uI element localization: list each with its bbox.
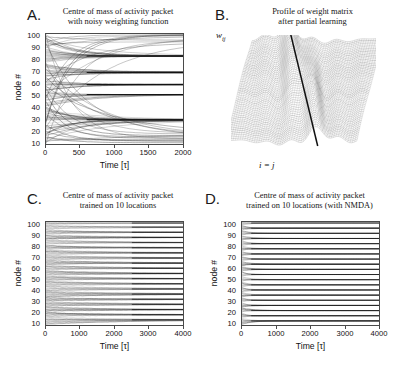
panel-a-ytick-2: 30 — [0, 115, 40, 124]
panel-d-plot-area — [241, 221, 380, 326]
panel-c-ytick-0: 10 — [0, 319, 40, 328]
panel-d-ytick-2: 30 — [196, 297, 236, 306]
panel-a-traces — [46, 34, 183, 144]
panel-a-ytick-7: 80 — [0, 55, 40, 64]
panel-d-xtick-2: 2000 — [302, 329, 319, 338]
panel-c-letter: C. — [27, 190, 42, 207]
panel-a-xtick-1: 500 — [73, 148, 86, 157]
panel-c-x-axis-label: Time [τ] — [45, 341, 184, 351]
panel-a-ytick-9: 100 — [0, 31, 40, 40]
panel-a-xtick-0: 0 — [43, 148, 47, 157]
panel-d-ytick-1: 20 — [196, 308, 236, 317]
panel-c-ytick-9: 100 — [0, 220, 40, 229]
panel-a-y-axis-label: node # — [13, 65, 23, 109]
panel-a-ytick-1: 20 — [0, 127, 40, 136]
panel-c-xtick-2: 2000 — [106, 329, 123, 338]
panel-c-xtick-0: 0 — [43, 329, 47, 338]
panel-a-ytick-0: 10 — [0, 139, 40, 148]
panel-d-letter: D. — [205, 190, 220, 207]
panel-d-y-axis-label: node # — [209, 251, 219, 295]
panel-c-title: Centre of mass of activity packet traine… — [48, 191, 188, 211]
panel-b-y-axis-label-sub: ij — [222, 35, 226, 42]
panel-a-x-axis-label: Time [τ] — [45, 160, 184, 170]
panel-d-x-axis-label: Time [τ] — [241, 341, 380, 351]
panel-d-xtick-3: 3000 — [337, 329, 354, 338]
panel-c-plot-area — [45, 221, 184, 326]
panel-d-xtick-4: 4000 — [371, 329, 388, 338]
panel-a-xtick-2: 1000 — [106, 148, 123, 157]
panel-d-ytick-7: 80 — [196, 242, 236, 251]
panel-d-xtick-0: 0 — [239, 329, 243, 338]
panel-d-ytick-8: 90 — [196, 231, 236, 240]
panel-d-ytick-9: 100 — [196, 220, 236, 229]
panel-c-xtick-1: 1000 — [71, 329, 88, 338]
panel-c-ytick-1: 20 — [0, 308, 40, 317]
panel-b-diagonal-label: i = j — [259, 160, 275, 170]
panel-b-y-axis-label: wij — [216, 30, 226, 42]
panel-b-weight-mesh — [231, 35, 376, 157]
panel-c-traces — [46, 222, 183, 325]
panel-a-xtick-3: 1500 — [140, 148, 157, 157]
panel-a-plot-area — [45, 33, 184, 145]
panel-c-xtick-4: 4000 — [175, 329, 192, 338]
panel-c-xtick-3: 3000 — [140, 329, 157, 338]
panel-d-ytick-0: 10 — [196, 319, 236, 328]
panel-a-ytick-8: 90 — [0, 43, 40, 52]
panel-c-ytick-8: 90 — [0, 231, 40, 240]
panel-c-ytick-2: 30 — [0, 297, 40, 306]
panel-c-ytick-7: 80 — [0, 242, 40, 251]
panel-d-title: Centre of mass of activity packet traine… — [228, 191, 391, 211]
panel-a-xtick-4: 2000 — [175, 148, 192, 157]
panel-a-title: Centre of mass of activity packet with n… — [48, 7, 188, 27]
panel-d-traces — [242, 222, 379, 325]
panel-c-y-axis-label: node # — [13, 251, 23, 295]
panel-a-letter: A. — [27, 6, 41, 23]
panel-b-plot-area — [231, 35, 376, 157]
panel-b-title: Profile of weight matrix after partial l… — [240, 7, 385, 27]
figure-root: A. Centre of mass of activity packet wit… — [0, 0, 394, 373]
panel-b-letter: B. — [215, 6, 229, 23]
panel-d-xtick-1: 1000 — [268, 329, 285, 338]
